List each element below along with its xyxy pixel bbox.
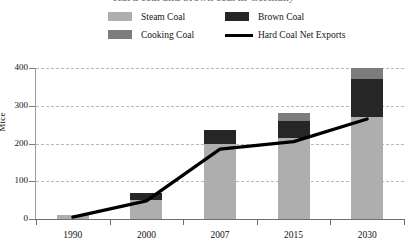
y-axis-label-0: 0 <box>0 213 28 223</box>
legend-item-steam-coal[interactable]: Steam Coal <box>108 10 185 23</box>
bar-segment-brown-2007 <box>204 130 236 143</box>
bar-2007[interactable] <box>204 130 236 219</box>
legend-item-hard-coal-net-exports[interactable]: Hard Coal Net Exports <box>225 28 345 41</box>
chart-legend: Steam Coal Cooking Coal Brown Coal Hard … <box>108 10 403 44</box>
chart-page: Hard coal and brown coal in Germany Stea… <box>0 0 410 244</box>
plot-area: Mtce 0100200300400 19902000200720152030 <box>0 55 410 244</box>
bar-segment-cooking-2030 <box>351 68 383 79</box>
bar-segment-steam-2030 <box>351 117 383 219</box>
steam-coal-swatch <box>108 12 132 21</box>
x-axis-label-2015: 2015 <box>264 230 324 240</box>
y-axis-title: Mtce <box>0 112 7 131</box>
bar-segment-steam-1990 <box>57 215 89 219</box>
x-tick-5 <box>404 219 405 225</box>
hard-coal-net-exports-swatch <box>225 34 253 37</box>
cooking-coal-swatch <box>108 30 132 39</box>
gridline-300 <box>36 106 404 107</box>
x-axis-label-2007: 2007 <box>190 230 250 240</box>
bar-1990[interactable] <box>57 215 89 219</box>
y-axis-label-200: 200 <box>0 138 28 148</box>
bar-2000[interactable] <box>130 193 162 219</box>
bar-segment-steam-2015 <box>278 138 310 219</box>
page-title: Hard coal and brown coal in Germany <box>113 0 294 3</box>
x-axis-label-1990: 1990 <box>43 230 103 240</box>
x-axis-label-2000: 2000 <box>116 230 176 240</box>
legend-label-brown-coal: Brown Coal <box>258 12 304 22</box>
bar-2015[interactable] <box>278 113 310 219</box>
brown-coal-swatch <box>225 12 249 21</box>
x-tick-2 <box>183 219 184 225</box>
x-tick-4 <box>330 219 331 225</box>
y-axis-line <box>35 68 36 220</box>
x-tick-1 <box>110 219 111 225</box>
legend-item-brown-coal[interactable]: Brown Coal <box>225 10 304 23</box>
bar-segment-brown-2030 <box>351 79 383 117</box>
bar-segment-cooking-2015 <box>278 113 310 121</box>
y-axis-label-100: 100 <box>0 175 28 185</box>
x-tick-3 <box>257 219 258 225</box>
legend-item-cooking-coal[interactable]: Cooking Coal <box>108 28 194 41</box>
x-axis-label-2030: 2030 <box>337 230 397 240</box>
legend-label-steam-coal: Steam Coal <box>141 12 185 22</box>
y-axis-label-400: 400 <box>0 62 28 72</box>
legend-label-cooking-coal: Cooking Coal <box>141 30 194 40</box>
bar-2030[interactable] <box>351 68 383 219</box>
x-axis-line <box>35 219 404 220</box>
bar-segment-steam-2000 <box>130 200 162 219</box>
bar-segment-steam-2007 <box>204 144 236 220</box>
legend-label-hard-coal-net-exports: Hard Coal Net Exports <box>258 30 345 40</box>
x-tick-0 <box>36 219 37 225</box>
y-axis-label-300: 300 <box>0 100 28 110</box>
bar-segment-brown-2015 <box>278 121 310 138</box>
bar-segment-brown-2000 <box>130 193 162 200</box>
clipped-title-strip: Hard coal and brown coal in Germany <box>0 0 410 8</box>
gridline-400 <box>36 68 404 69</box>
